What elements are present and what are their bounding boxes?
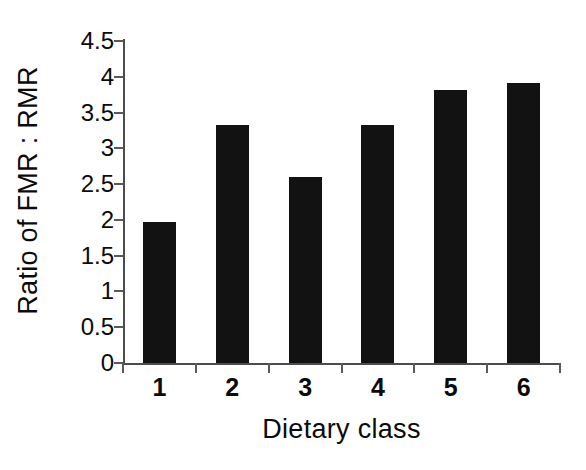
x-tick-mark — [559, 363, 561, 373]
y-tick-label: 2 — [101, 208, 114, 232]
y-tick-label: 4 — [101, 65, 114, 89]
bar-chart-figure: Ratio of FMR : RMR 00.511.522.533.544.5 … — [0, 0, 586, 470]
x-tick-mark — [195, 363, 197, 373]
x-tick-mark — [413, 363, 415, 373]
y-tick-label: 2.5 — [81, 172, 114, 196]
y-tick-mark — [114, 147, 123, 149]
bar-3 — [289, 177, 322, 363]
y-axis-line — [123, 39, 125, 363]
x-tick-mark — [486, 363, 488, 373]
bar-2 — [216, 125, 249, 363]
y-tick-mark — [114, 219, 123, 221]
y-tick-label: 1 — [101, 279, 114, 303]
y-tick-label: 0.5 — [81, 315, 114, 339]
x-tick-mark — [268, 363, 270, 373]
y-tick-mark — [114, 326, 123, 328]
x-tick-label-1: 1 — [152, 375, 166, 400]
x-tick-label-3: 3 — [298, 375, 312, 400]
x-tick-mark — [341, 363, 343, 373]
y-tick-mark — [114, 40, 123, 42]
x-tick-mark-origin — [122, 363, 124, 373]
plot-area — [123, 41, 560, 363]
bar-6 — [507, 83, 540, 363]
y-tick-label: 4.5 — [81, 29, 114, 53]
y-axis-title-text: Ratio of FMR : RMR — [13, 66, 44, 314]
bar-5 — [434, 90, 467, 363]
x-axis-tick-labels: 123456 — [123, 375, 560, 409]
y-tick-label: 0 — [101, 351, 114, 375]
x-tick-label-6: 6 — [517, 375, 531, 400]
y-tick-label: 3 — [101, 136, 114, 160]
bar-1 — [143, 222, 176, 363]
y-tick-mark — [114, 255, 123, 257]
y-tick-mark — [114, 183, 123, 185]
bar-4 — [361, 125, 394, 363]
y-tick-label: 1.5 — [81, 244, 114, 268]
y-tick-mark — [114, 76, 123, 78]
x-tick-label-2: 2 — [225, 375, 239, 400]
y-tick-mark — [114, 112, 123, 114]
y-tick-mark — [114, 290, 123, 292]
x-tick-label-4: 4 — [371, 375, 385, 400]
y-axis-title: Ratio of FMR : RMR — [0, 0, 56, 380]
y-axis-tick-labels: 00.511.522.533.544.5 — [56, 0, 118, 470]
x-tick-label-5: 5 — [444, 375, 458, 400]
x-axis-title: Dietary class — [123, 414, 560, 445]
y-tick-label: 3.5 — [81, 101, 114, 125]
